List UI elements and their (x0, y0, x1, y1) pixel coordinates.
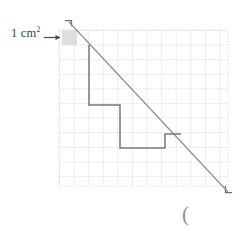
figure-container: 1 cm2 ( (0, 0, 248, 231)
shaded-unit-square (62, 30, 77, 45)
unit-area-label: 1 cm2 (11, 27, 40, 40)
right-arrow-icon (44, 35, 61, 40)
paren-mark: ( (182, 204, 189, 225)
grid-lines (59, 30, 228, 186)
unit-area-label-exponent: 2 (36, 25, 40, 34)
unit-area-label-text: 1 cm (11, 26, 36, 40)
